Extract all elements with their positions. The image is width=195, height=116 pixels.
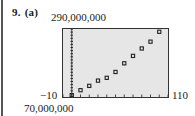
data-point (79, 89, 82, 92)
xmin-label: −10 (40, 89, 57, 101)
problem-label: 9.(a) (12, 6, 38, 18)
data-point (149, 40, 152, 43)
ymin-label: 70,000,000 (24, 102, 74, 114)
data-point (158, 30, 161, 33)
page-margin-rule (1, 0, 3, 116)
xmax-label: 110 (172, 89, 188, 101)
data-point (96, 79, 99, 82)
problem-part: (a) (25, 6, 38, 18)
data-point (123, 62, 126, 65)
problem-number: 9. (12, 6, 21, 18)
data-point (105, 76, 108, 79)
calculator-graph-screen (62, 28, 169, 98)
data-point (140, 47, 143, 50)
ymax-label: 290,000,000 (51, 11, 106, 23)
data-point (88, 84, 91, 87)
data-point (131, 54, 134, 57)
data-point (114, 70, 117, 73)
scatter-plot (63, 29, 168, 97)
